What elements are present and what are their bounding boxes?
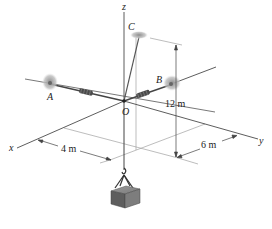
spring-ob-icon bbox=[136, 89, 151, 98]
z-axis-label: z bbox=[121, 1, 126, 12]
x-axis-label: x bbox=[8, 142, 14, 153]
hook-icon bbox=[115, 168, 133, 188]
origin-point bbox=[122, 99, 126, 103]
x-axis bbox=[17, 101, 124, 148]
point-c-label: C bbox=[128, 21, 135, 32]
cable-oc bbox=[124, 37, 139, 101]
y-axis-label: y bbox=[258, 135, 264, 146]
crate-icon bbox=[111, 186, 140, 208]
mount-c-icon bbox=[130, 31, 148, 39]
point-b-label: B bbox=[156, 74, 162, 85]
dimension-6m-label: 6 m bbox=[201, 139, 217, 150]
dimension-4m-label: 4 m bbox=[61, 143, 77, 154]
point-o-label: O bbox=[122, 106, 129, 117]
y-axis bbox=[124, 101, 258, 139]
dimension-12m-label: 12 m bbox=[165, 98, 186, 109]
point-a-label: A bbox=[46, 91, 54, 102]
statics-diagram: z x y C A B O 12 m 4 m 6 m bbox=[0, 0, 272, 229]
